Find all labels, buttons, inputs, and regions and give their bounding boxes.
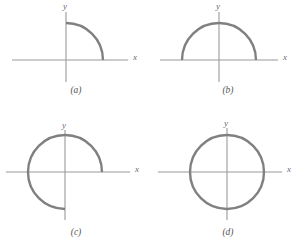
x-axis-label: x: [287, 165, 291, 174]
arc-quarter-circle: [66, 23, 103, 60]
y-axis-label: y: [216, 2, 220, 11]
panel-caption-b: (b): [152, 86, 304, 96]
y-axis-label: y: [63, 2, 67, 11]
panel-b-plot: [152, 0, 304, 125]
panel-d: x y (d): [152, 125, 304, 250]
x-axis-label: x: [283, 53, 287, 62]
x-axis-label: x: [135, 165, 139, 174]
panel-b: x y (b): [152, 0, 304, 125]
panel-c: x y (c): [0, 125, 152, 250]
y-axis-label: y: [62, 121, 66, 130]
panel-a-plot: [0, 0, 152, 125]
panel-caption-d: (d): [152, 228, 304, 238]
x-axis-label: x: [133, 53, 137, 62]
y-axis-label: y: [224, 119, 228, 128]
figure-circular-arcs: x y (a) x y (b) x y (c): [0, 0, 304, 250]
panel-caption-a: (a): [0, 86, 152, 96]
panel-a: x y (a): [0, 0, 152, 125]
panel-caption-c: (c): [0, 228, 152, 238]
